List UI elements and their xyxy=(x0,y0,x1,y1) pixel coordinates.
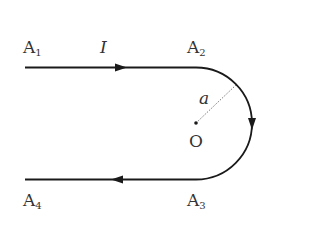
semicircle-wire xyxy=(196,68,252,180)
arrow-right-icon xyxy=(115,64,127,72)
label-current: I xyxy=(99,37,107,57)
label-a3: A3 xyxy=(186,190,206,211)
label-a2: A2 xyxy=(186,37,206,58)
arrow-left-icon xyxy=(111,176,123,184)
label-a1: A1 xyxy=(22,37,42,58)
label-a4: A4 xyxy=(22,190,42,211)
label-radius: a xyxy=(199,88,209,108)
current-loop-diagram: A1 I A2 a O A3 A4 xyxy=(0,0,315,240)
label-center: O xyxy=(189,131,203,151)
arrow-down-icon xyxy=(248,118,256,130)
center-point xyxy=(194,121,198,125)
